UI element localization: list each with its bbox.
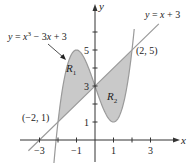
y-tick-label-5: 5 <box>84 45 89 56</box>
x-tick-label-neg1: −1 <box>71 145 82 156</box>
point-label-2-5: (2, 5) <box>136 45 158 57</box>
cubic-equation-label: y = x3 − 3x + 3 <box>7 30 67 42</box>
y-axis-label: y <box>98 0 104 12</box>
area-between-curves-figure: y x −3 −1 1 3 5 3 1 y = x3 − 3x + 3 y = … <box>0 0 189 167</box>
x-tick-label-3: 3 <box>148 145 153 156</box>
y-tick-label-1: 1 <box>84 117 89 128</box>
cubic-label-pointer <box>48 44 63 57</box>
y-tick-label-3: 3 <box>84 81 89 92</box>
x-axis-label: x <box>180 134 186 146</box>
line-equation-label: y = x + 3 <box>144 9 180 20</box>
x-tick-label-1: 1 <box>111 145 116 156</box>
x-axis <box>20 138 180 143</box>
x-axis-arrow-icon <box>173 138 180 143</box>
line-y-equals-x-plus-3 <box>28 24 158 151</box>
y-axis-arrow-icon <box>93 4 98 11</box>
point-label-neg2-1: (−2, 1) <box>22 112 49 124</box>
x-tick-label-neg3: −3 <box>34 145 45 156</box>
